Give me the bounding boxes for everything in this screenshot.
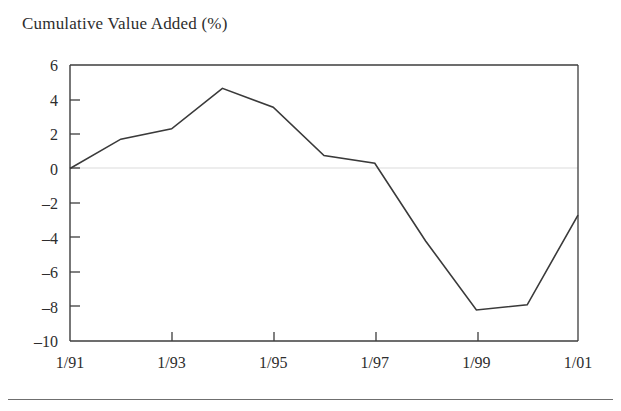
x-tick-label: 1/01 <box>564 354 592 371</box>
y-tick-label: 0 <box>50 161 58 178</box>
x-tick-label: 1/91 <box>56 354 84 371</box>
x-tick-label: 1/97 <box>361 354 389 371</box>
plot-area: 6420–2–4–6–8–10 1/911/931/951/971/991/01 <box>0 0 621 411</box>
data-series-line <box>70 88 578 310</box>
y-tick-label: –8 <box>41 299 58 316</box>
y-tick-label: –6 <box>41 264 58 281</box>
y-tick-label: –2 <box>41 195 58 212</box>
x-tick-labels: 1/911/931/951/971/991/01 <box>56 354 592 371</box>
x-tick-label: 1/93 <box>157 354 185 371</box>
footer-rule <box>8 399 613 400</box>
y-tick-labels: 6420–2–4–6–8–10 <box>33 57 58 350</box>
y-tick-label: 2 <box>50 126 58 143</box>
y-tick-label: 6 <box>50 57 58 74</box>
y-tick-label: –10 <box>33 333 58 350</box>
x-tick-label: 1/95 <box>259 354 287 371</box>
line-chart-svg: 6420–2–4–6–8–10 1/911/931/951/971/991/01 <box>0 0 621 411</box>
figure: Cumulative Value Added (%) <box>0 0 621 411</box>
y-axis-ticks <box>70 100 80 306</box>
x-axis-ticks <box>172 332 478 341</box>
y-tick-label: 4 <box>50 92 58 109</box>
x-tick-label: 1/99 <box>462 354 490 371</box>
y-tick-label: –4 <box>41 230 58 247</box>
